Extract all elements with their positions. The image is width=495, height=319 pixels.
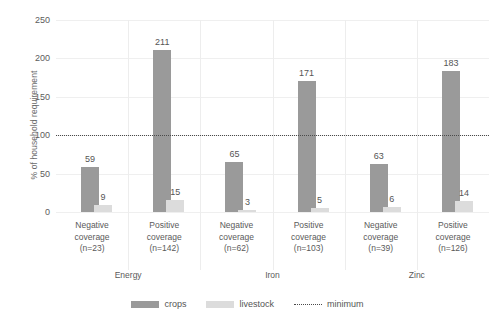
legend-swatch-crops-icon — [131, 301, 159, 308]
bar-livestock-1 — [94, 205, 112, 212]
bar-crops-3 — [225, 162, 243, 212]
bar-value-label: 14 — [459, 188, 469, 198]
legend-item-minimum[interactable]: minimum — [294, 299, 364, 309]
bar-value-label: 9 — [101, 192, 106, 202]
legend-swatch-livestock-icon — [206, 301, 234, 308]
bar-livestock-3 — [238, 210, 256, 212]
minimum-reference-line — [56, 135, 489, 136]
bar-value-label: 65 — [229, 149, 239, 159]
category-label-3: Negativecoverage(n=62) — [219, 220, 254, 255]
bar-value-label: 6 — [389, 194, 394, 204]
bar-livestock-6 — [455, 201, 473, 212]
bar-value-label: 15 — [170, 187, 180, 197]
legend-item-livestock[interactable]: livestock — [206, 299, 274, 309]
bar-livestock-4 — [311, 208, 329, 212]
legend-label: livestock — [239, 299, 274, 309]
bar-crops-6 — [442, 71, 460, 212]
legend-item-crops[interactable]: crops — [131, 299, 186, 309]
legend-label: minimum — [327, 299, 364, 309]
legend-label: crops — [164, 299, 186, 309]
bar-livestock-2 — [166, 200, 184, 212]
category-label-6: Positivecoverage(n=126) — [435, 220, 470, 255]
bar-chart: % of household requirement 0501001502002… — [0, 0, 495, 319]
category-label-2: Positivecoverage(n=142) — [147, 220, 182, 255]
legend-swatch-minimum-icon — [294, 304, 322, 305]
bar-value-label: 171 — [299, 68, 314, 78]
bar-value-label: 211 — [155, 37, 169, 47]
bar-value-label: 183 — [443, 58, 458, 68]
group-label-energy: Energy — [115, 270, 142, 280]
bar-crops-2 — [153, 50, 171, 212]
chart-legend: cropslivestockminimum — [0, 296, 495, 312]
group-label-iron: Iron — [265, 270, 280, 280]
category-label-5: Negativecoverage(n=39) — [363, 220, 398, 255]
category-label-4: Positivecoverage(n=103) — [291, 220, 326, 255]
bar-value-label: 59 — [85, 154, 95, 164]
bar-crops-5 — [370, 164, 388, 212]
category-label-1: Negativecoverage(n=23) — [75, 220, 110, 255]
bar-crops-4 — [298, 81, 316, 212]
bar-livestock-5 — [383, 207, 401, 212]
bar-value-label: 63 — [374, 151, 384, 161]
bar-value-label: 5 — [317, 195, 322, 205]
group-label-zinc: Zinc — [409, 270, 425, 280]
bar-value-label: 3 — [245, 197, 250, 207]
